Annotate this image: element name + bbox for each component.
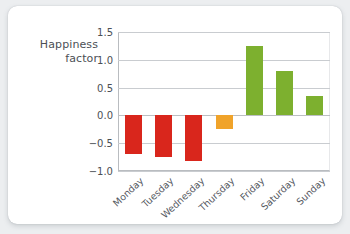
bar-sunday[interactable]: [306, 96, 323, 115]
y-axis-tick-label: −0.5: [89, 138, 113, 149]
bar-tuesday[interactable]: [155, 115, 172, 157]
gridline: [118, 88, 330, 89]
bar-chart-figure: Happiness factor 1.51.00.50.0−0.5−1.0 Mo…: [8, 6, 342, 224]
bar-wednesday[interactable]: [185, 115, 202, 161]
bar-saturday[interactable]: [276, 71, 293, 115]
plot-frame: [118, 32, 330, 171]
y-axis-title-line2: factor: [14, 52, 98, 66]
gridline: [118, 60, 330, 61]
bar-monday[interactable]: [125, 115, 142, 154]
y-axis-tick-label: 0.0: [97, 110, 113, 121]
bar-thursday[interactable]: [216, 115, 233, 129]
y-axis-tick-label: 1.5: [97, 27, 113, 38]
gridline: [118, 32, 330, 33]
y-axis-tick-label: −1.0: [89, 166, 113, 177]
gridline: [118, 171, 330, 172]
x-axis-tick-label: Monday: [111, 175, 146, 209]
bar-friday[interactable]: [246, 46, 263, 116]
gridline: [118, 143, 330, 144]
y-axis-title: Happiness factor: [14, 38, 98, 65]
x-axis-tick-label: Friday: [238, 175, 267, 203]
y-axis-tick-label: 1.0: [97, 54, 113, 65]
x-axis-tick-label: Sunday: [294, 175, 327, 207]
chart-card: Happiness factor 1.51.00.50.0−0.5−1.0 Mo…: [8, 6, 342, 224]
plot-area: 1.51.00.50.0−0.5−1.0 MondayTuesdayWednes…: [118, 32, 330, 171]
y-axis-tick-label: 0.5: [97, 82, 113, 93]
y-axis-title-line1: Happiness: [14, 38, 98, 52]
